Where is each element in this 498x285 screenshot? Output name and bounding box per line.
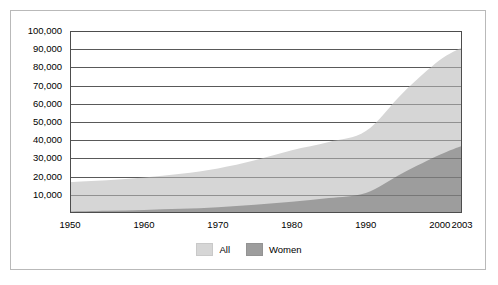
legend-label-all: All — [219, 244, 230, 255]
x-tick-label: 1960 — [133, 219, 154, 230]
legend-label-women: Women — [269, 244, 302, 255]
chart-figure: 10,00020,00030,00040,00050,00060,00070,0… — [0, 0, 498, 285]
x-tick-label: 1970 — [207, 219, 228, 230]
legend-item-all: All — [196, 243, 230, 256]
x-tick-label: 1950 — [59, 219, 80, 230]
legend-swatch-all — [196, 243, 213, 256]
x-tick-label: 1980 — [281, 219, 302, 230]
legend-item-women: Women — [246, 243, 302, 256]
x-tick-label: 2003 — [451, 219, 472, 230]
legend-swatch-women — [246, 243, 263, 256]
x-tick-label: 2000 — [429, 219, 450, 230]
x-tick-label: 1990 — [355, 219, 376, 230]
chart-legend: All Women — [0, 243, 498, 256]
